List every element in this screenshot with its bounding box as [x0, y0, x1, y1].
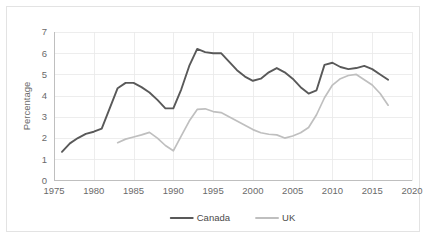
- legend-label-uk: UK: [282, 212, 296, 223]
- y-tick-label: 5: [42, 69, 47, 80]
- y-axis-title: Percentage: [21, 82, 32, 131]
- chart-plot-area: 01234567 1975198019851990199520002005201…: [0, 0, 433, 244]
- vertical-gridlines: [95, 32, 413, 181]
- data-series-group: [62, 49, 388, 152]
- y-tick-label: 6: [42, 48, 47, 59]
- x-tick-label: 2015: [362, 185, 383, 196]
- x-tick-label: 2000: [242, 185, 263, 196]
- x-tick-label: 2020: [401, 185, 422, 196]
- x-tick-label: 1985: [123, 185, 144, 196]
- y-tick-label: 4: [42, 90, 47, 101]
- horizontal-gridlines: [54, 33, 412, 160]
- legend-item-canada[interactable]: Canada: [171, 212, 231, 223]
- y-tick-label: 3: [42, 111, 47, 122]
- x-tick-label: 1995: [203, 185, 224, 196]
- chart-legend: CanadaUK: [171, 212, 296, 223]
- x-tick-label: 1980: [83, 185, 104, 196]
- y-tick-label: 1: [42, 154, 47, 165]
- x-tick-label: 1990: [163, 185, 184, 196]
- y-tick-label: 7: [42, 26, 47, 37]
- x-tick-label: 1975: [43, 185, 64, 196]
- x-axis-tick-labels: 1975198019851990199520002005201020152020: [43, 185, 422, 196]
- y-tick-label: 2: [42, 132, 47, 143]
- series-line-canada: [62, 49, 388, 152]
- line-chart: 01234567 1975198019851990199520002005201…: [0, 0, 433, 244]
- x-tick-label: 2010: [322, 185, 343, 196]
- series-line-uk: [118, 74, 388, 150]
- legend-item-uk[interactable]: UK: [256, 212, 296, 223]
- y-axis-tick-labels: 01234567: [42, 26, 47, 186]
- x-tick-label: 2005: [282, 185, 303, 196]
- legend-label-canada: Canada: [197, 212, 231, 223]
